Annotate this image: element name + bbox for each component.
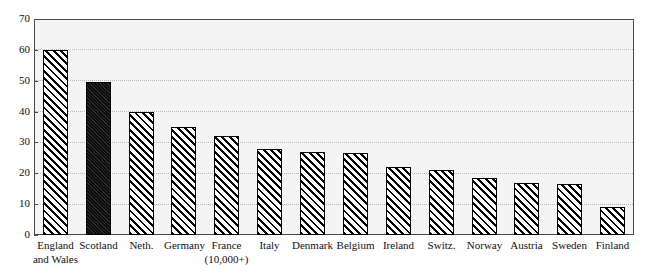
x-label-finland: Finland [585,238,640,252]
bar-scotland [86,82,111,235]
x-label-line1: France [212,239,242,251]
y-tick-mark-30 [34,142,38,143]
bar-chart: 010203040506070 Englandand WalesScotland… [0,0,652,274]
x-label-line1: Italy [259,239,279,251]
x-label-line1: Finland [596,239,630,251]
bar-austria [514,183,539,235]
x-label-line1: Austria [510,239,542,251]
x-label-line1: Ireland [383,239,414,251]
bar-denmark [300,152,325,235]
bar-germany [171,127,196,235]
y-tick-label-70: 70 [4,13,30,24]
x-label-line1: Denmark [292,239,333,251]
bar-neth [129,112,154,235]
x-label-line1: Norway [467,239,502,251]
bar-italy [257,149,282,235]
bar-norway [472,178,497,235]
y-tick-mark-50 [34,81,38,82]
y-tick-mark-0 [34,235,38,236]
y-tick-mark-60 [34,50,38,51]
bar-sweden [557,184,582,235]
bar-england-and-wales [43,50,68,235]
bar-finland [600,207,625,235]
bars-group [34,19,634,235]
y-tick-mark-10 [34,204,38,205]
y-tick-label-40: 40 [4,106,30,117]
bar-france-10-000 [214,136,239,235]
y-tick-label-60: 60 [4,44,30,55]
y-axis: 010203040506070 [0,19,30,235]
bar-switz [429,170,454,235]
y-tick-label-30: 30 [4,136,30,147]
x-axis-labels: Englandand WalesScotlandNeth.GermanyFran… [34,238,634,274]
x-label-line1: England [37,239,74,251]
y-tick-mark-40 [34,112,38,113]
y-tick-mark-70 [34,19,38,20]
bar-belgium [343,153,368,235]
x-label-line1: Scotland [79,239,118,251]
x-label-line1: Neth. [129,239,153,251]
y-tick-label-10: 10 [4,198,30,209]
x-label-line1: Sweden [552,239,587,251]
y-tick-mark-20 [34,173,38,174]
x-label-line2: (10,000+) [199,252,254,266]
x-label-line1: Switz. [428,239,456,251]
x-label-line1: Belgium [337,239,375,251]
y-tick-label-50: 50 [4,75,30,86]
y-tick-label-0: 0 [4,229,30,240]
x-label-line2: and Wales [28,252,83,266]
bar-ireland [386,167,411,235]
y-tick-label-20: 20 [4,167,30,178]
